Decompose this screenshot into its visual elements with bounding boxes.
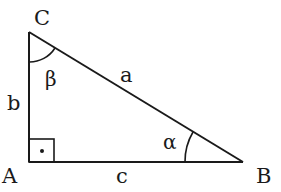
vertex-label-b: B <box>256 164 271 188</box>
right-angle-dot <box>40 149 44 153</box>
right-triangle-diagram: C A B b a c β α <box>0 0 281 192</box>
vertex-label-c: C <box>34 6 50 30</box>
angle-label-alpha: α <box>163 130 177 154</box>
side-a <box>29 32 243 162</box>
vertex-label-a: A <box>1 164 18 188</box>
angle-beta-arc <box>29 48 55 62</box>
side-label-a: a <box>120 63 133 87</box>
angle-alpha-arc <box>185 132 193 162</box>
side-label-c: c <box>116 164 128 188</box>
angle-label-beta: β <box>45 67 57 91</box>
side-label-b: b <box>7 91 20 115</box>
